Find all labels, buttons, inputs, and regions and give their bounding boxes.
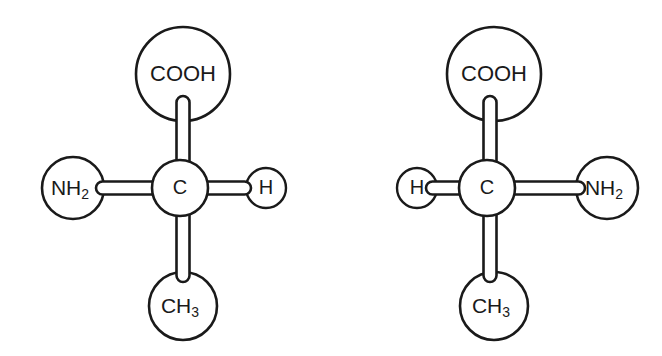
right-central-carbon-label: C bbox=[480, 176, 494, 198]
right-h-label: H bbox=[410, 176, 424, 198]
right-cooh-label: COOH bbox=[461, 61, 527, 86]
right-molecule: COOH H NH2 CH3 C bbox=[397, 27, 638, 340]
molecule-diagram-canvas: COOH NH2 H CH3 C COOH H NH2 CH3 C bbox=[0, 0, 662, 356]
left-molecule: COOH NH2 H CH3 C bbox=[42, 27, 286, 340]
left-h-label: H bbox=[259, 176, 273, 198]
left-cooh-label: COOH bbox=[150, 61, 216, 86]
left-central-carbon-label: C bbox=[173, 176, 187, 198]
